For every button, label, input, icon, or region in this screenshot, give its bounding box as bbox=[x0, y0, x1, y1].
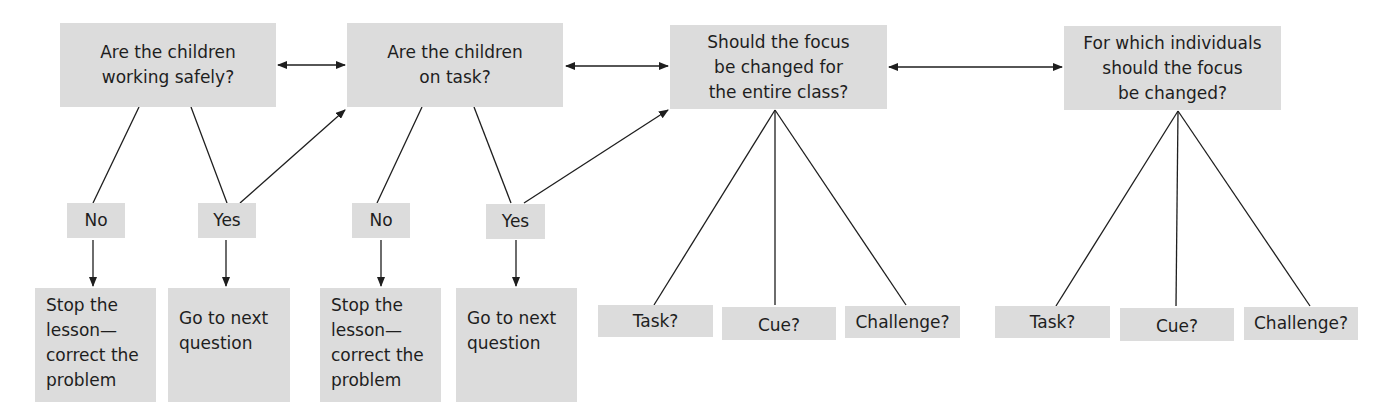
question-box-individual-focus: For which individuals should the focus b… bbox=[1064, 26, 1281, 110]
answer-label: No bbox=[369, 208, 392, 233]
answer-label: No bbox=[84, 208, 107, 233]
answer-box-yes-on-task: Yes bbox=[486, 204, 545, 239]
question-label: Are the children on task? bbox=[387, 40, 523, 90]
outcome-label: Go to next question bbox=[467, 306, 556, 356]
question-label: Should the focus be changed for the enti… bbox=[707, 30, 849, 105]
option-label: Challenge? bbox=[1254, 311, 1348, 336]
answer-label: Yes bbox=[213, 208, 240, 233]
answer-label: Yes bbox=[502, 209, 529, 234]
option-label: Task? bbox=[1030, 310, 1076, 335]
outcome-label: Go to next question bbox=[179, 306, 268, 356]
individual-option-cue: Cue? bbox=[1120, 308, 1234, 341]
yes-to-q2-arrow bbox=[240, 110, 345, 203]
outcome-box-stop-lesson-on-task: Stop the lesson— correct the problem bbox=[320, 288, 441, 402]
option-label: Challenge? bbox=[855, 310, 949, 335]
class-option-challenge: Challenge? bbox=[845, 306, 960, 338]
outcome-box-next-question-safety: Go to next question bbox=[168, 288, 290, 402]
option-label: Task? bbox=[633, 309, 679, 334]
question-label: For which individuals should the focus b… bbox=[1083, 31, 1261, 106]
class-option-cue: Cue? bbox=[722, 307, 836, 340]
yes-to-q3-arrow bbox=[524, 110, 668, 203]
answer-box-no-safety: No bbox=[67, 203, 125, 238]
option-label: Cue? bbox=[758, 313, 800, 338]
question-box-entire-class-focus: Should the focus be changed for the enti… bbox=[670, 25, 887, 109]
answer-box-no-on-task: No bbox=[352, 203, 410, 238]
question-box-on-task: Are the children on task? bbox=[347, 23, 563, 107]
outcome-label: Stop the lesson— correct the problem bbox=[331, 293, 424, 393]
question-label: Are the children working safely? bbox=[100, 40, 236, 90]
class-option-task: Task? bbox=[598, 305, 713, 337]
outcome-box-next-question-on-task: Go to next question bbox=[456, 288, 577, 402]
question-box-working-safely: Are the children working safely? bbox=[60, 23, 276, 107]
individual-option-challenge: Challenge? bbox=[1244, 307, 1358, 340]
answer-box-yes-safety: Yes bbox=[198, 203, 256, 238]
individual-option-task: Task? bbox=[995, 306, 1110, 338]
option-label: Cue? bbox=[1156, 314, 1198, 339]
outcome-box-stop-lesson-safety: Stop the lesson— correct the problem bbox=[35, 288, 156, 402]
outcome-label: Stop the lesson— correct the problem bbox=[46, 293, 139, 393]
